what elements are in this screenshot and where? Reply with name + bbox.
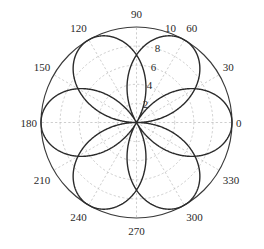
r-tick-label-4: 4 — [147, 79, 153, 91]
theta-tick-label-30: 30 — [223, 61, 235, 73]
polar-plot-canvas: 0306090120150180210240270300330246810 — [0, 0, 264, 249]
r-tick-label-10: 10 — [165, 22, 177, 34]
theta-tick-label-180: 180 — [21, 117, 38, 129]
theta-tick-label-210: 210 — [34, 174, 51, 186]
theta-tick-label-150: 150 — [34, 61, 51, 73]
theta-tick-label-270: 270 — [128, 225, 145, 237]
theta-tick-label-240: 240 — [70, 211, 87, 223]
theta-tick-label-330: 330 — [223, 174, 240, 186]
grid-spoke-210 — [54, 123, 137, 171]
theta-tick-label-120: 120 — [70, 22, 87, 34]
polar-plot-figure: 0306090120150180210240270300330246810 — [0, 0, 264, 249]
r-tick-label-8: 8 — [155, 42, 161, 54]
r-tick-label-6: 6 — [151, 61, 157, 73]
grid-spoke-330 — [137, 123, 220, 171]
theta-tick-label-60: 60 — [186, 22, 198, 34]
theta-tick-label-0: 0 — [236, 117, 242, 129]
theta-tick-label-300: 300 — [186, 211, 203, 223]
grid-spoke-150 — [54, 75, 137, 123]
r-tick-label-2: 2 — [143, 98, 149, 110]
theta-tick-label-90: 90 — [131, 8, 143, 20]
